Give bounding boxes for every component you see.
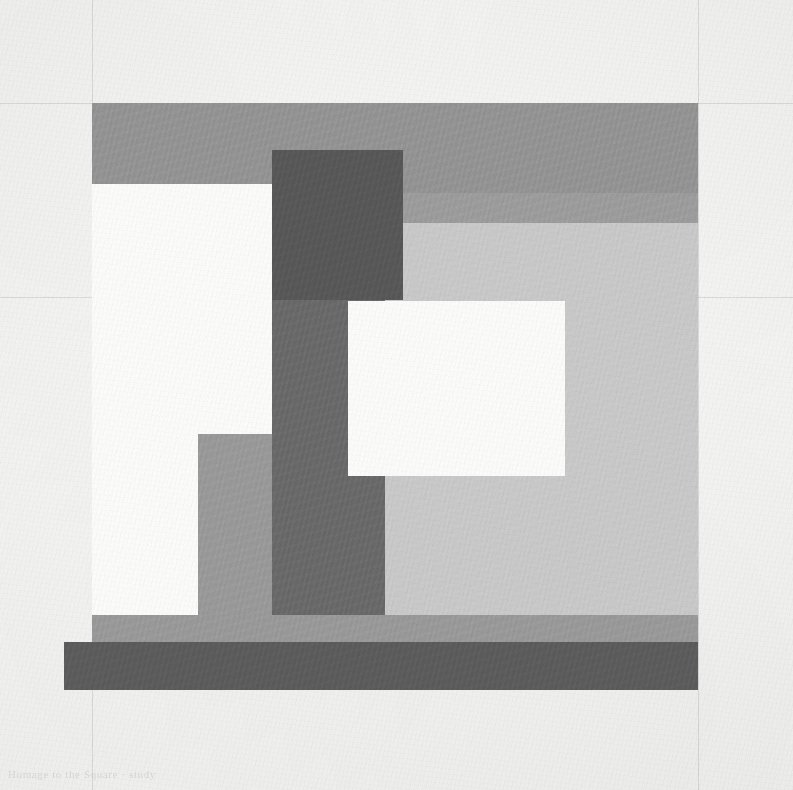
- pencil-inscription: Homage to the Square · study: [8, 768, 156, 780]
- paper-ground: [0, 0, 793, 790]
- artwork-canvas: Homage to the Square · study: [0, 0, 793, 790]
